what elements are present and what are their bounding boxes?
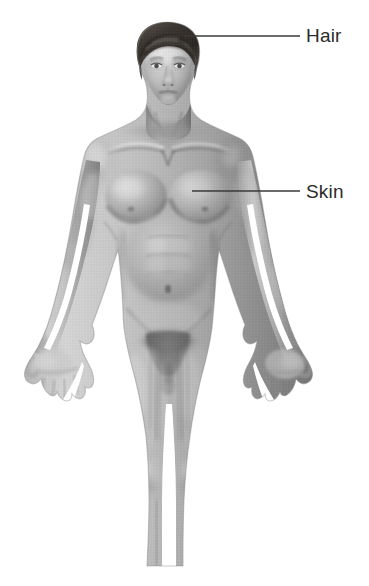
head [130, 18, 208, 108]
anatomy-figure: Hair Skin [0, 0, 369, 586]
human-body-illustration [0, 0, 369, 586]
callout-label-hair: Hair [306, 26, 342, 45]
callout-label-skin: Skin [306, 182, 344, 201]
